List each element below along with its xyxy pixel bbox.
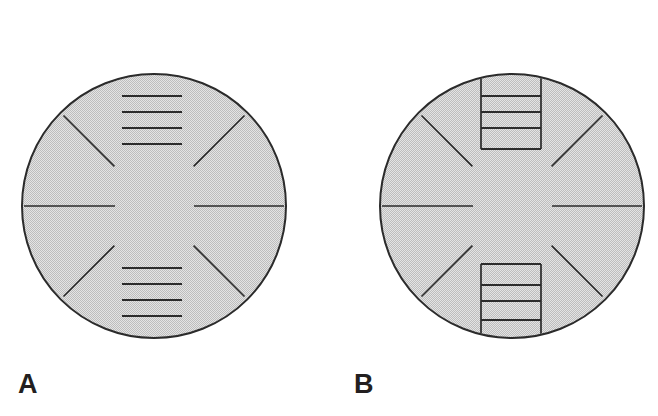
panel-b-diagram (329, 0, 658, 416)
panel-a: A (0, 0, 329, 416)
panel-label-a: A (18, 371, 38, 398)
figure-root: A B (0, 0, 658, 416)
panel-label-b: B (354, 371, 374, 398)
panel-a-diagram (0, 0, 329, 416)
panel-b: B (329, 0, 658, 416)
